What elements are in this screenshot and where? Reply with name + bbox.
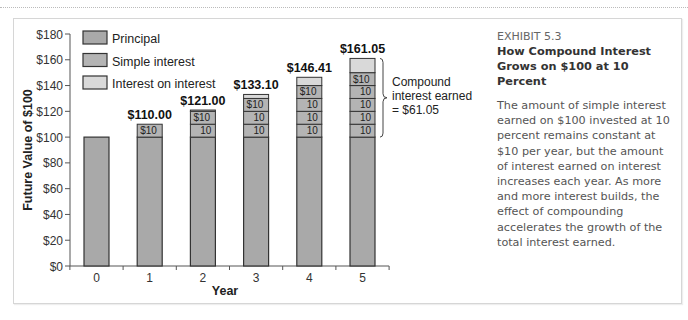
legend-label: Interest on interest bbox=[112, 77, 216, 91]
y-tick-label: $160 bbox=[36, 53, 63, 67]
segment-label: 10 bbox=[360, 99, 372, 110]
segment-label: 10 bbox=[307, 99, 319, 110]
exhibit-caption: EXHIBIT 5.3 How Compound Interest Grows … bbox=[497, 30, 677, 250]
bar-interest-on-interest bbox=[190, 110, 215, 111]
y-axis-title: Future Value of $100 bbox=[21, 89, 35, 211]
annotation-text: interest earned bbox=[392, 89, 472, 103]
segment-label: $10 bbox=[193, 112, 210, 123]
segment-label: $10 bbox=[247, 99, 264, 110]
bar-principal bbox=[350, 137, 375, 266]
segment-label: 10 bbox=[360, 125, 372, 136]
bar-total-label: $146.41 bbox=[287, 61, 332, 75]
bar-total-label: $161.05 bbox=[340, 42, 385, 56]
bar-principal bbox=[244, 137, 269, 266]
bar-interest-on-interest bbox=[297, 77, 322, 85]
y-tick-label: $0 bbox=[50, 260, 64, 274]
segment-label: 10 bbox=[307, 125, 319, 136]
bar-total-label: $110.00 bbox=[127, 108, 172, 122]
x-tick-label: 2 bbox=[200, 271, 207, 285]
segment-label: 10 bbox=[253, 125, 265, 136]
segment-label: $10 bbox=[353, 74, 370, 85]
x-tick-label: 1 bbox=[146, 271, 153, 285]
segment-label: 10 bbox=[360, 112, 372, 123]
legend-swatch bbox=[83, 54, 107, 67]
exhibit-description: The amount of simple interest earned on … bbox=[497, 98, 677, 250]
y-tick-label: $140 bbox=[36, 79, 63, 93]
bar-principal bbox=[137, 137, 162, 266]
brace-annotation bbox=[380, 58, 387, 137]
bar-principal bbox=[84, 137, 109, 266]
legend-swatch bbox=[83, 31, 107, 44]
bar-principal bbox=[297, 137, 322, 266]
segment-label: 10 bbox=[253, 112, 265, 123]
bar-interest-on-interest bbox=[244, 94, 269, 98]
y-tick-label: $40 bbox=[43, 208, 63, 222]
bar-interest-on-interest bbox=[350, 58, 375, 72]
x-tick-label: 5 bbox=[359, 271, 366, 285]
segment-label: 10 bbox=[307, 112, 319, 123]
bar-principal bbox=[190, 137, 215, 266]
bar-total-label: $121.00 bbox=[180, 94, 225, 108]
annotation-text: Compound bbox=[392, 75, 451, 89]
bar-total-label: $133.10 bbox=[234, 78, 279, 92]
y-tick-label: $120 bbox=[36, 105, 63, 119]
x-tick-label: 4 bbox=[306, 271, 313, 285]
y-tick-label: $60 bbox=[43, 182, 63, 196]
y-tick-label: $180 bbox=[36, 28, 63, 42]
segment-label: $10 bbox=[140, 125, 157, 136]
y-tick-label: $100 bbox=[36, 131, 63, 145]
segment-label: 10 bbox=[200, 125, 212, 136]
legend-label: Simple interest bbox=[112, 55, 195, 69]
x-tick-label: 0 bbox=[93, 271, 100, 285]
legend-swatch bbox=[83, 76, 107, 89]
exhibit-title: How Compound Interest Grows on $100 at 1… bbox=[497, 44, 677, 89]
x-axis-title: Year bbox=[212, 284, 239, 298]
x-tick-label: 3 bbox=[253, 271, 260, 285]
annotation-text: = $61.05 bbox=[392, 103, 439, 117]
segment-label: $10 bbox=[300, 86, 317, 97]
y-tick-label: $20 bbox=[43, 234, 63, 248]
segment-label: 10 bbox=[360, 86, 372, 97]
exhibit-label: EXHIBIT 5.3 bbox=[497, 30, 677, 43]
legend-label: Principal bbox=[112, 32, 160, 46]
y-tick-label: $80 bbox=[43, 156, 63, 170]
